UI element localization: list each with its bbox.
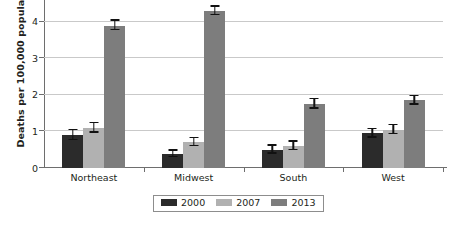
bar: [383, 130, 404, 168]
legend-swatch-2007: [216, 199, 232, 206]
bar: [404, 100, 425, 168]
category-label-south: South: [243, 172, 343, 183]
legend-label-2013: 2013: [291, 198, 315, 208]
error-bar-cap: [368, 128, 377, 129]
bar: [204, 11, 225, 168]
error-bar-cap: [389, 133, 398, 134]
error-bar-cap: [168, 156, 177, 157]
y-tick: [39, 57, 44, 58]
y-tick: [39, 21, 44, 22]
error-bar-cap: [310, 98, 319, 99]
error-bar-cap: [110, 19, 119, 20]
error-bar-cap: [89, 131, 98, 132]
chart-legend: 2000 2007 2013: [153, 195, 324, 212]
bar-chart: Deaths per 100,000 population 01234 Nort…: [0, 0, 449, 225]
gridline: [44, 21, 443, 22]
bar: [362, 133, 383, 168]
y-tick: [39, 130, 44, 131]
y-tick-label: 1: [22, 127, 38, 137]
category-label-west: West: [343, 172, 443, 183]
legend-item-2013: 2013: [271, 198, 315, 208]
plot-inner: 01234: [44, 0, 443, 168]
bar: [104, 26, 125, 168]
plot-area: 01234: [44, 0, 443, 168]
error-bar-cap: [168, 149, 177, 150]
y-tick: [39, 167, 44, 168]
error-bar-cap: [110, 29, 119, 30]
error-bar-cap: [89, 122, 98, 123]
error-bar-cap: [310, 107, 319, 108]
bar: [83, 128, 104, 168]
legend-label-2000: 2000: [181, 198, 205, 208]
error-bar-cap: [410, 103, 419, 104]
category-label-midwest: Midwest: [144, 172, 244, 183]
x-tick: [443, 168, 444, 172]
legend-item-2007: 2007: [216, 198, 260, 208]
legend-swatch-2013: [271, 199, 287, 206]
y-tick-label: 4: [22, 17, 38, 27]
legend-item-2000: 2000: [161, 198, 205, 208]
error-bar-cap: [289, 140, 298, 141]
error-bar-cap: [189, 137, 198, 138]
y-tick: [39, 94, 44, 95]
y-tick-label: 2: [22, 90, 38, 100]
error-bar-cap: [68, 139, 77, 140]
error-bar-cap: [368, 136, 377, 137]
error-bar-cap: [268, 144, 277, 145]
error-bar-cap: [68, 129, 77, 130]
error-bar-cap: [210, 14, 219, 15]
error-bar-cap: [289, 149, 298, 150]
error-bar-cap: [189, 145, 198, 146]
legend-swatch-2000: [161, 199, 177, 206]
y-axis-line: [44, 0, 45, 168]
error-bar-cap: [389, 124, 398, 125]
error-bar-cap: [410, 95, 419, 96]
y-tick-label: 0: [22, 164, 38, 174]
bar: [304, 104, 325, 168]
legend-label-2007: 2007: [236, 198, 260, 208]
error-bar-cap: [210, 5, 219, 6]
error-bar-cap: [268, 152, 277, 153]
y-tick-label: 3: [22, 54, 38, 64]
category-label-northeast: Northeast: [44, 172, 144, 183]
bar: [62, 135, 83, 168]
